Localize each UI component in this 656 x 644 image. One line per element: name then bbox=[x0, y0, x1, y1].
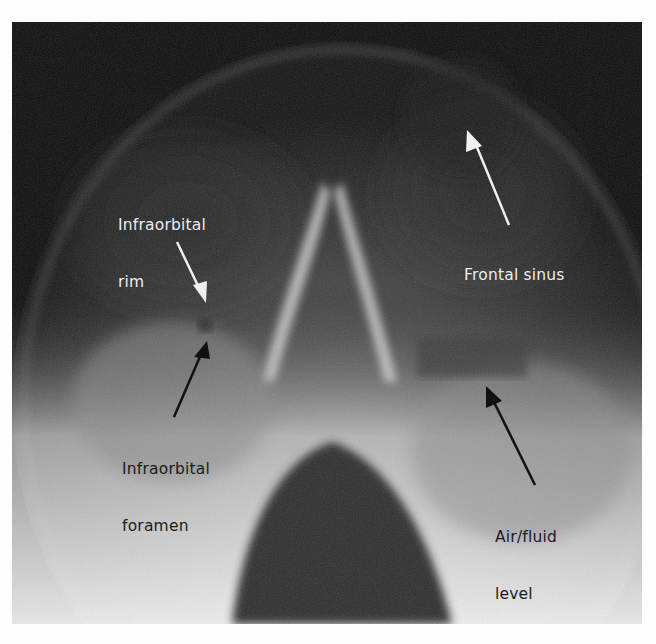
label-line: Infraorbital bbox=[118, 216, 206, 235]
label-line: rim bbox=[118, 273, 206, 292]
label-line: level bbox=[495, 585, 557, 604]
label-line: Air/fluid bbox=[495, 528, 557, 547]
label-line: foramen bbox=[122, 517, 210, 536]
xray-image: Infraorbital rim Frontal sinus Infraorbi… bbox=[12, 22, 642, 624]
label-line: Frontal sinus bbox=[464, 266, 565, 285]
label-infraorbital-rim: Infraorbital rim bbox=[118, 178, 206, 330]
label-line: Infraorbital bbox=[122, 460, 210, 479]
label-infraorbital-foramen: Infraorbital foramen bbox=[122, 422, 210, 574]
label-air-fluid-level: Air/fluid level bbox=[495, 490, 557, 624]
label-frontal-sinus: Frontal sinus bbox=[464, 228, 565, 323]
